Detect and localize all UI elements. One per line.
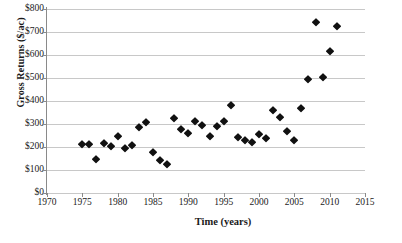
- x-axis-tick-label: 1975: [62, 198, 102, 208]
- x-axis-tick-label: 1990: [168, 198, 208, 208]
- data-point: [121, 144, 129, 152]
- data-point: [198, 121, 206, 129]
- data-point: [276, 113, 284, 121]
- data-point: [297, 104, 305, 112]
- data-point: [269, 106, 277, 114]
- data-point: [114, 132, 122, 140]
- y-axis-tick-label: $200: [10, 142, 44, 152]
- gridline-horizontal: [47, 9, 365, 10]
- gridline-horizontal: [47, 170, 365, 171]
- data-point: [304, 75, 312, 83]
- gridline-horizontal: [47, 101, 365, 102]
- data-point: [262, 135, 270, 143]
- y-axis-tick: [42, 124, 47, 125]
- y-axis-tick-label: $800: [10, 4, 44, 14]
- y-axis-tick-label: $600: [10, 50, 44, 60]
- y-axis-tick-label: $500: [10, 73, 44, 83]
- data-point: [149, 148, 157, 156]
- data-point: [333, 22, 341, 30]
- y-axis-tick-label: $100: [10, 165, 44, 175]
- y-axis-tick: [42, 32, 47, 33]
- plot-area: [47, 9, 365, 193]
- data-point: [227, 101, 235, 109]
- y-axis-tick: [42, 170, 47, 171]
- y-axis-tick-label: $700: [10, 27, 44, 37]
- gridline-horizontal: [47, 32, 365, 33]
- gridline-horizontal: [47, 55, 365, 56]
- x-axis-tick-label: 1995: [204, 198, 244, 208]
- x-axis-tick-label: 2010: [310, 198, 350, 208]
- data-point: [319, 73, 327, 81]
- y-axis-tick: [42, 101, 47, 102]
- data-point: [283, 127, 291, 135]
- y-axis-tick: [42, 9, 47, 10]
- x-axis-tick-label: 2015: [345, 198, 385, 208]
- data-point: [92, 155, 100, 163]
- data-point: [206, 132, 214, 140]
- data-point: [312, 18, 320, 26]
- x-axis-tick-label: 1985: [133, 198, 173, 208]
- y-axis-tick-label: $400: [10, 96, 44, 106]
- x-axis-tick-label: 2000: [239, 198, 279, 208]
- y-axis-tick: [42, 78, 47, 79]
- data-point: [184, 129, 192, 137]
- x-axis-tick-label: 2005: [274, 198, 314, 208]
- y-axis-tick: [42, 55, 47, 56]
- gridline-horizontal: [47, 147, 365, 148]
- data-point: [170, 114, 178, 122]
- y-axis-tick: [42, 147, 47, 148]
- y-axis-tick-label: $300: [10, 119, 44, 129]
- x-axis-title: Time (years): [0, 216, 402, 227]
- data-point: [248, 138, 256, 146]
- scatter-chart: Gross Returns ($/ac) $0$100$200$300$400$…: [0, 0, 402, 243]
- data-point: [241, 136, 249, 144]
- x-axis-tick-label: 1970: [27, 198, 67, 208]
- gridline-horizontal: [47, 193, 365, 194]
- data-point: [163, 160, 171, 168]
- x-axis-tick-label: 1980: [98, 198, 138, 208]
- gridline-horizontal: [47, 78, 365, 79]
- data-point: [290, 136, 298, 144]
